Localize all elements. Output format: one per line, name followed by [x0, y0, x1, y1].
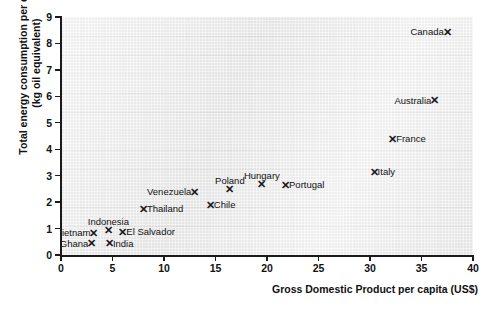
x-tick-20	[266, 256, 267, 261]
y-tick-9	[55, 16, 60, 17]
x-tick-label-20: 20	[261, 262, 273, 274]
data-point-label-vietnam: Vietnam	[61, 228, 90, 238]
y-tick-label-3: 3	[46, 170, 52, 182]
y-tick-label-8: 8	[46, 37, 52, 49]
y-tick-4	[55, 149, 60, 150]
x-axis-title: Gross Domestic Product per capita (US$)	[0, 283, 478, 295]
data-point-label-portugal: Portugal	[289, 180, 324, 190]
data-point-canada[interactable]: ✕Canada	[443, 26, 452, 37]
data-point-portugal[interactable]: ✕Portugal	[281, 179, 290, 190]
data-point-el-salvador[interactable]: ✕El Salvador	[118, 226, 127, 237]
y-tick-2	[55, 201, 60, 202]
y-tick-5	[55, 122, 60, 123]
data-point-indonesia[interactable]: ✕Indonesia	[104, 224, 113, 235]
y-tick-label-2: 2	[46, 196, 52, 208]
y-axis-title: Total energy consumption per capita (kg …	[17, 0, 43, 163]
y-tick-label-4: 4	[46, 143, 52, 155]
data-point-label-el-salvador: El Salvador	[126, 227, 175, 237]
marker-x-icon: ✕	[190, 185, 199, 197]
x-tick-0	[60, 256, 61, 261]
x-tick-label-25: 25	[313, 262, 325, 274]
y-tick-label-7: 7	[46, 64, 52, 76]
data-point-ghana[interactable]: ✕Ghana	[87, 238, 96, 249]
data-point-label-france: France	[396, 134, 426, 144]
x-tick-35	[421, 256, 422, 261]
x-tick-10	[163, 256, 164, 261]
data-point-label-canada: Canada	[410, 27, 443, 37]
data-point-label-australia: Australia	[394, 96, 431, 106]
y-axis-line	[60, 16, 62, 256]
data-point-hungary[interactable]: ✕Hungary	[257, 178, 266, 189]
data-point-venezuela[interactable]: ✕Venezuela	[190, 186, 199, 197]
y-tick-3	[55, 175, 60, 176]
x-tick-15	[215, 256, 216, 261]
x-tick-label-10: 10	[158, 262, 170, 274]
marker-x-icon: ✕	[443, 25, 452, 37]
x-tick-label-15: 15	[210, 262, 222, 274]
data-point-thailand[interactable]: ✕Thailand	[139, 203, 148, 214]
data-point-label-venezuela: Venezuela	[147, 187, 191, 197]
data-point-label-hungary: Hungary	[244, 171, 280, 181]
x-tick-5	[112, 256, 113, 261]
data-point-label-ghana: Ghana	[61, 238, 88, 248]
data-point-label-italy: Italy	[378, 167, 395, 177]
data-point-label-poland: Poland	[215, 176, 245, 186]
x-tick-40	[472, 256, 473, 261]
plot-area: ✕Canada✕Australia✕France✕Italy✕Portugal✕…	[61, 17, 473, 255]
y-tick-label-9: 9	[46, 11, 52, 23]
y-tick-label-6: 6	[46, 90, 52, 102]
x-tick-label-40: 40	[467, 262, 479, 274]
x-tick-label-30: 30	[364, 262, 376, 274]
x-tick-25	[318, 256, 319, 261]
data-point-label-thailand: Thailand	[147, 204, 183, 214]
y-tick-8	[55, 43, 60, 44]
scatter-chart-figure: ✕Canada✕Australia✕France✕Italy✕Portugal✕…	[0, 0, 492, 310]
y-tick-7	[55, 69, 60, 70]
y-tick-label-5: 5	[46, 117, 52, 129]
data-point-india[interactable]: ✕India	[105, 238, 114, 249]
y-tick-label-0: 0	[46, 249, 52, 261]
y-tick-1	[55, 228, 60, 229]
x-tick-30	[369, 256, 370, 261]
y-tick-0	[55, 254, 60, 255]
data-point-chile[interactable]: ✕Chile	[206, 199, 215, 210]
data-point-label-india: India	[113, 238, 134, 248]
x-tick-label-35: 35	[416, 262, 428, 274]
data-point-italy[interactable]: ✕Italy	[370, 166, 379, 177]
marker-x-icon: ✕	[430, 94, 439, 106]
data-point-poland[interactable]: ✕Poland	[225, 183, 234, 194]
x-tick-label-5: 5	[110, 262, 116, 274]
data-point-france[interactable]: ✕France	[388, 133, 397, 144]
data-point-australia[interactable]: ✕Australia	[430, 95, 439, 106]
y-tick-label-1: 1	[46, 223, 52, 235]
data-point-label-chile: Chile	[214, 200, 236, 210]
x-tick-label-0: 0	[58, 262, 64, 274]
y-tick-6	[55, 96, 60, 97]
